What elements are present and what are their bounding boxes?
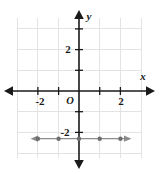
x-tick-label-minus-2: -2 bbox=[35, 95, 45, 107]
data-point bbox=[98, 137, 102, 141]
figure-background bbox=[0, 0, 160, 174]
data-point bbox=[36, 137, 40, 141]
coordinate-plane-figure: x y O -2 2 2 -2 bbox=[0, 0, 160, 174]
y-tick-label-minus-2: -2 bbox=[60, 126, 70, 138]
x-axis-label: x bbox=[139, 70, 146, 82]
graph-container: x y O -2 2 2 -2 bbox=[0, 0, 160, 174]
origin-label: O bbox=[66, 95, 74, 106]
data-point bbox=[118, 137, 122, 141]
data-point bbox=[77, 137, 81, 141]
x-tick-label-2: 2 bbox=[118, 95, 124, 107]
y-axis-label: y bbox=[85, 10, 92, 22]
y-tick-label-2: 2 bbox=[65, 43, 71, 55]
